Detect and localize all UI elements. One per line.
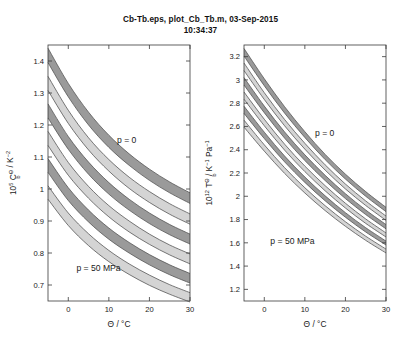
right-yticklabel: 1.8 xyxy=(229,215,240,224)
left-annotation: p = 50 MPa xyxy=(76,263,120,273)
figure-canvas: Cb-Tb.eps, plot_Cb_Tb.m, 03-Sep-2015 10:… xyxy=(0,0,401,346)
left-xticklabel: 10 xyxy=(105,305,113,314)
left-yticklabel: 0.8 xyxy=(33,249,44,258)
left-yticklabel: 1.4 xyxy=(33,57,44,66)
right-xaxis-label: Θ / °C xyxy=(304,319,327,329)
plot-panel-left: 01020300.70.80.911.11.21.31.4Θ / °C105 C… xyxy=(0,36,200,346)
right-yticklabel: 2 xyxy=(236,192,240,201)
left-yaxis-label-subscript: b xyxy=(15,175,21,178)
right-annotation: p = 0 xyxy=(315,128,335,138)
plot-right-svg: 01020301.21.41.61.822.22.42.62.833.2Θ / … xyxy=(196,36,401,346)
right-xticklabel: 30 xyxy=(382,305,390,314)
right-yticklabel: 1.4 xyxy=(229,262,240,271)
left-xticklabel: 0 xyxy=(66,305,70,314)
right-yaxis-label-subscript: b xyxy=(211,173,217,176)
right-xticklabel: 0 xyxy=(262,305,266,314)
right-annotation: p = 50 MPa xyxy=(270,236,314,246)
plot-panel-right: 01020301.21.41.61.822.22.42.62.833.2Θ / … xyxy=(196,36,401,346)
left-annotation: p = 0 xyxy=(117,135,137,145)
right-yticklabel: 2.4 xyxy=(229,145,240,154)
left-yticklabel: 0.9 xyxy=(33,217,44,226)
left-yticklabel: 1.1 xyxy=(33,153,44,162)
right-yaxis-label: 1012 TΘ / K−1 Pa−1 xyxy=(204,140,214,205)
figure-title-line1: Cb-Tb.eps, plot_Cb_Tb.m, 03-Sep-2015 xyxy=(123,15,278,24)
right-xticklabel: 10 xyxy=(301,305,309,314)
right-yticklabel: 3.2 xyxy=(229,52,240,61)
right-yticklabel: 2.8 xyxy=(229,99,240,108)
left-yaxis-label: 105 CΘ / K−2 xyxy=(5,151,18,195)
right-yticklabel: 2.6 xyxy=(229,122,240,131)
right-yticklabel: 3 xyxy=(236,76,240,85)
figure-title-line2: 10:34:37 xyxy=(0,25,401,36)
left-yticklabel: 1.3 xyxy=(33,89,44,98)
left-xaxis-label: Θ / °C xyxy=(108,319,131,329)
left-yticklabel: 1.2 xyxy=(33,121,44,130)
right-yticklabel: 1.6 xyxy=(229,239,240,248)
left-xticklabel: 30 xyxy=(186,305,194,314)
figure-title: Cb-Tb.eps, plot_Cb_Tb.m, 03-Sep-2015 10:… xyxy=(0,14,401,36)
left-yticklabel: 0.7 xyxy=(33,281,44,290)
left-yticklabel: 1 xyxy=(40,185,44,194)
right-xticklabel: 20 xyxy=(341,305,349,314)
left-xticklabel: 20 xyxy=(145,305,153,314)
plot-left-svg: 01020300.70.80.911.11.21.31.4Θ / °C105 C… xyxy=(0,36,200,346)
right-yticklabel: 2.2 xyxy=(229,169,240,178)
right-yticklabel: 1.2 xyxy=(229,285,240,294)
